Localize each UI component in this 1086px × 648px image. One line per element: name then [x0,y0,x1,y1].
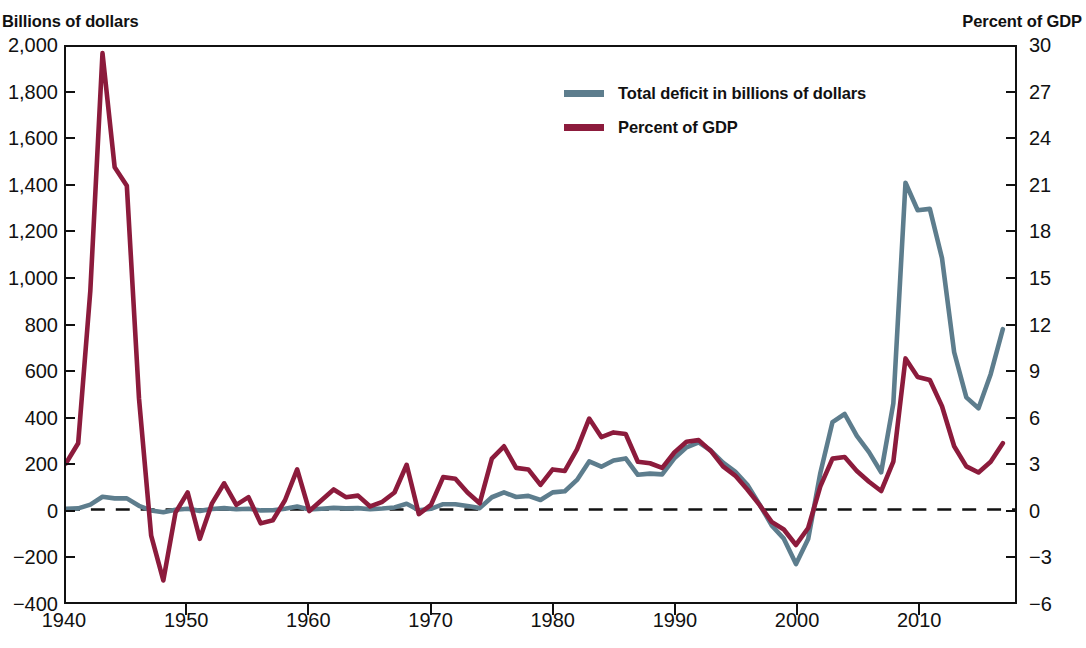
right-axis-tick-label: 0 [1029,501,1040,521]
legend-label: Total deficit in billions of dollars [618,84,866,103]
x-axis-tick-label: 2000 [757,610,837,630]
left-axis-tick-mark [64,370,75,372]
right-axis-tick-label: 6 [1029,408,1040,428]
left-axis-tick-mark [64,230,75,232]
left-axis-tick-label: 200 [0,454,58,474]
left-axis-tick-label: 1,000 [0,268,58,288]
legend-label: Percent of GDP [618,118,738,137]
right-axis-tick-label: −3 [1029,547,1052,567]
right-axis-tick-label: 3 [1029,454,1040,474]
left-axis-tick-mark [64,417,75,419]
left-axis-tick-label: 2,000 [0,35,58,55]
left-axis-tick-label: −200 [0,547,58,567]
right-axis-tick-label: 18 [1029,221,1051,241]
plot-svg [66,47,1015,602]
right-axis-tick-mark [1006,230,1017,232]
x-axis-tick-label: 1970 [391,610,471,630]
left-axis-tick-mark [64,184,75,186]
left-axis-title: Billions of dollars [2,12,139,31]
left-axis-tick-label: 600 [0,361,58,381]
chart-legend: Total deficit in billions of dollarsPerc… [564,76,866,144]
right-axis-tick-mark [1006,277,1017,279]
left-axis-tick-mark [64,510,75,512]
right-axis-tick-mark [1006,417,1017,419]
right-axis-tick-label: 21 [1029,175,1051,195]
right-axis-tick-label: 15 [1029,268,1051,288]
right-axis-tick-label: 30 [1029,35,1051,55]
right-axis-tick-label: 9 [1029,361,1040,381]
x-axis-tick-label: 1950 [146,610,226,630]
legend-color-swatch [564,90,604,97]
left-axis-tick-mark [64,556,75,558]
legend-color-swatch [564,124,604,131]
left-axis-tick-label: 1,200 [0,221,58,241]
total-deficit-line [66,183,1003,564]
left-axis-tick-label: 800 [0,315,58,335]
right-axis-tick-label: 24 [1029,128,1051,148]
right-axis-tick-mark [1006,91,1017,93]
right-axis-tick-mark [1006,510,1017,512]
right-axis-tick-label: 12 [1029,315,1051,335]
right-axis-tick-mark [1006,324,1017,326]
right-axis-tick-mark [1006,463,1017,465]
x-axis-tick-label: 1940 [24,610,104,630]
left-axis-tick-mark [64,463,75,465]
legend-item[interactable]: Percent of GDP [564,110,866,144]
x-axis-tick-label: 1980 [513,610,593,630]
plot-area [64,45,1017,604]
x-axis-tick-label: 1990 [635,610,715,630]
right-axis-tick-mark [1006,370,1017,372]
right-axis-title: Percent of GDP [962,12,1082,31]
right-axis-tick-label: −6 [1029,594,1052,614]
chart-page: Billions of dollars Percent of GDP 2,000… [0,0,1086,648]
right-axis-tick-label: 27 [1029,82,1051,102]
x-axis-tick-label: 1960 [268,610,348,630]
left-axis-tick-label: 0 [0,501,58,521]
right-axis-tick-mark [1006,556,1017,558]
left-axis-tick-mark [64,277,75,279]
left-axis-tick-mark [64,324,75,326]
right-axis-tick-mark [1006,137,1017,139]
right-axis-tick-mark [1006,184,1017,186]
x-axis-tick-label: 2010 [879,610,959,630]
left-axis-tick-label: 1,800 [0,82,58,102]
legend-item[interactable]: Total deficit in billions of dollars [564,76,866,110]
left-axis-tick-label: 1,600 [0,128,58,148]
left-axis-tick-label: 400 [0,408,58,428]
left-axis-tick-mark [64,91,75,93]
left-axis-tick-label: 1,400 [0,175,58,195]
left-axis-tick-mark [64,137,75,139]
